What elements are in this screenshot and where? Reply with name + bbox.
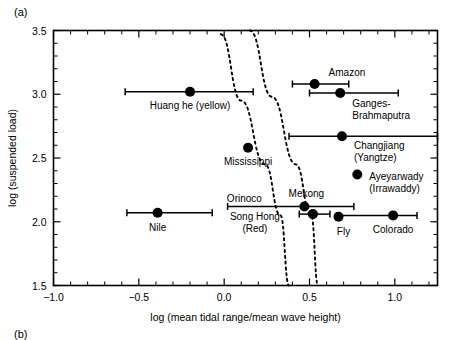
scatter-plot: −1.0−0.50.00.51.01.52.02.53.03.5 Huang h… [0, 0, 452, 340]
figure-panel-a: (a) (b) −1.0−0.50.00.51.01.52.02.53.03.5… [0, 0, 452, 340]
data-point-marker [337, 131, 347, 141]
data-point-label: Mekong [289, 188, 325, 199]
data-point-marker [243, 143, 253, 153]
data-point-marker [310, 79, 320, 89]
data-point-label: (Irrawaddy) [369, 183, 420, 194]
y-axis-tick-label: 2.0 [32, 216, 47, 228]
data-point-label: (Red) [242, 223, 267, 234]
y-axis-tick-label: 1.5 [32, 280, 47, 292]
data-point-marker [153, 208, 163, 218]
x-axis-tick-label: −1.0 [43, 291, 64, 303]
data-point-marker [299, 201, 309, 211]
data-point-label: Ayeyarwady [369, 171, 423, 182]
data-point-label: Brahmaputra [352, 110, 410, 121]
data-point-label: Fly [337, 226, 350, 237]
data-point-label: Ganges- [352, 98, 390, 109]
x-axis-tick-label: 1.0 [388, 291, 403, 303]
y-axis-tick-label: 2.5 [32, 152, 47, 164]
data-point-marker [352, 170, 362, 180]
data-point-label: Mississippi [224, 156, 272, 167]
data-point-label: (Yangtze) [354, 152, 397, 163]
data-point-label: Orinoco [227, 193, 262, 204]
x-axis-tick-label: −0.5 [128, 291, 149, 303]
data-point-label: Colorado [373, 224, 414, 235]
data-point-label: Changjiang [354, 140, 405, 151]
x-axis-tick-label: 0.5 [302, 291, 317, 303]
data-point-layer: Huang he (yellow)AmazonGanges-Brahmaputr… [125, 67, 437, 237]
data-point-marker [335, 88, 345, 98]
data-point-label: Song Hong [230, 211, 280, 222]
y-axis-tick-label: 3.0 [32, 88, 47, 100]
data-point-marker [388, 210, 398, 220]
data-point-marker [185, 87, 195, 97]
data-point-label: Huang he (yellow) [150, 100, 231, 111]
data-point-label: Amazon [329, 67, 366, 78]
y-axis-title: log (suspended load) [6, 109, 18, 207]
x-axis-tick-label: 0.0 [217, 291, 232, 303]
y-axis-tick-label: 3.5 [32, 25, 47, 37]
data-point-marker [334, 212, 344, 222]
x-axis-title: log (mean tidal range/mean wave height) [150, 311, 340, 323]
data-point-label: Nile [149, 222, 167, 233]
data-point-marker [308, 209, 318, 219]
